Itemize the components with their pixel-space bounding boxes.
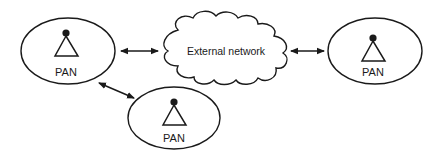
cloud-label: External network: [187, 45, 266, 57]
pan-node-bottom: PAN: [128, 87, 220, 149]
arrow-left-to-bottom: [99, 83, 134, 98]
pan-label: PAN: [362, 66, 384, 78]
pan-label: PAN: [55, 66, 77, 78]
pan-label: PAN: [163, 132, 185, 144]
external-network-cloud: External network: [164, 11, 287, 84]
network-diagram: PAN External network PAN PAN: [0, 0, 441, 157]
pan-node-left: PAN: [21, 18, 115, 84]
pan-node-right: PAN: [328, 18, 422, 84]
antenna-icon: [163, 98, 186, 125]
antenna-icon: [55, 29, 78, 56]
antenna-icon: [362, 34, 385, 61]
